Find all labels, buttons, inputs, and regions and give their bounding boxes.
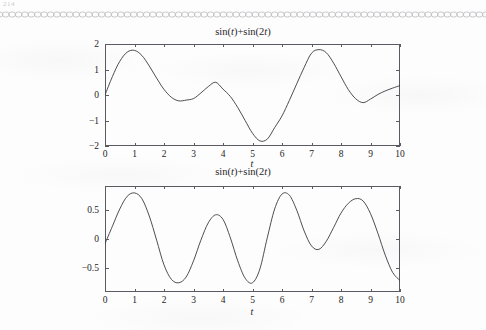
y-tick-right (396, 210, 400, 211)
x-tick-top (194, 186, 195, 189)
x-tick-top (371, 44, 372, 47)
x-tick-label: 6 (280, 295, 285, 305)
chain-rule-ornament (0, 9, 486, 20)
x-tick (312, 143, 313, 146)
plot-axes-2 (105, 186, 400, 292)
x-tick-label: 9 (368, 295, 373, 305)
x-tick (253, 143, 254, 146)
x-tick-label: 4 (221, 149, 226, 159)
x-tick-top (135, 44, 136, 47)
y-tick-label: 2 (0, 39, 99, 49)
x-tick-top (105, 186, 106, 189)
x-tick-top (341, 44, 342, 47)
figure-sin-plot-1: sin(t)+sin(2t) 012345678910 210−1−2 t (0, 26, 486, 172)
y-tick-label: 1 (0, 65, 99, 75)
x-tick (223, 289, 224, 292)
x-tick (400, 143, 401, 146)
x-tick-top (253, 44, 254, 47)
x-tick (194, 289, 195, 292)
y-tick-right (396, 268, 400, 269)
x-tick (164, 143, 165, 146)
x-tick-label: 7 (309, 295, 314, 305)
y-tick-right (396, 146, 400, 147)
x-axis-label-2: t (251, 306, 254, 317)
x-tick-top (282, 44, 283, 47)
x-tick-label: 5 (250, 149, 255, 159)
title2-part-a: sin( (215, 166, 231, 177)
plot-title-1: sin(t)+sin(2t) (0, 26, 486, 37)
x-tick (282, 143, 283, 146)
y-tick-right (396, 44, 400, 45)
y-tick (105, 121, 109, 122)
x-tick-label: 0 (103, 295, 108, 305)
y-tick-label: −1 (0, 116, 99, 126)
x-tick (135, 143, 136, 146)
x-tick-top (164, 186, 165, 189)
x-tick-top (400, 44, 401, 47)
x-tick-label: 6 (280, 149, 285, 159)
y-tick-right (396, 239, 400, 240)
x-tick (312, 289, 313, 292)
y-tick-label: −0.5 (0, 263, 99, 273)
x-tick-label: 4 (221, 295, 226, 305)
plot-axes-1 (105, 44, 400, 146)
curve-1 (105, 44, 400, 146)
y-tick (105, 268, 109, 269)
title-part-a: sin( (215, 26, 231, 37)
y-tick (105, 95, 109, 96)
x-tick-label: 0 (103, 149, 108, 159)
x-tick (105, 289, 106, 292)
x-tick-label: 3 (191, 149, 196, 159)
y-tick (105, 70, 109, 71)
x-tick-top (223, 186, 224, 189)
x-tick (223, 143, 224, 146)
x-tick-top (312, 186, 313, 189)
plot-title-2: sin(t)+sin(2t) (0, 166, 486, 177)
y-tick (105, 210, 109, 211)
x-tick-label: 1 (132, 295, 137, 305)
x-tick-top (194, 44, 195, 47)
x-tick (341, 289, 342, 292)
x-tick-label: 5 (250, 295, 255, 305)
x-tick (371, 289, 372, 292)
y-tick (105, 239, 109, 240)
y-tick (105, 146, 109, 147)
x-tick-label: 7 (309, 149, 314, 159)
x-tick-top (223, 44, 224, 47)
x-tick-top (253, 186, 254, 189)
y-tick-label: 0 (0, 234, 99, 244)
x-tick-top (400, 186, 401, 189)
x-tick-label: 9 (368, 149, 373, 159)
x-tick (164, 289, 165, 292)
x-tick-top (164, 44, 165, 47)
x-tick-label: 8 (339, 295, 344, 305)
x-tick-label: 2 (162, 149, 167, 159)
x-tick-label: 8 (339, 149, 344, 159)
title2-part-c: ) (267, 166, 271, 177)
y-tick (105, 44, 109, 45)
x-tick (135, 289, 136, 292)
figure-sin-plot-2: sin(t)+sin(2t) 012345678910 0.50−0.5 t (0, 166, 486, 326)
title-part-b: )+sin(2 (234, 26, 264, 37)
x-tick (253, 289, 254, 292)
x-tick (194, 143, 195, 146)
x-tick-top (135, 186, 136, 189)
x-tick (282, 289, 283, 292)
x-tick-label: 10 (395, 295, 405, 305)
x-tick-label: 3 (191, 295, 196, 305)
x-tick-top (312, 44, 313, 47)
x-tick (371, 143, 372, 146)
y-tick-label: −2 (0, 141, 99, 151)
y-tick-label: 0.5 (0, 205, 99, 215)
x-tick-top (371, 186, 372, 189)
page-number: 214 (3, 0, 15, 8)
x-tick (400, 289, 401, 292)
x-tick-label: 1 (132, 149, 137, 159)
y-tick-right (396, 95, 400, 96)
x-tick (341, 143, 342, 146)
x-tick-top (341, 186, 342, 189)
y-tick-label: 0 (0, 90, 99, 100)
x-tick-label: 10 (395, 149, 405, 159)
curve-2 (105, 186, 400, 292)
x-tick-top (282, 186, 283, 189)
